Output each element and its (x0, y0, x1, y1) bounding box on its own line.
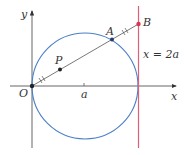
point-A-label: A (105, 25, 114, 38)
line-equation-label: x = 2a (143, 48, 179, 61)
x-axis-label: x (171, 90, 178, 103)
point-P-label: P (54, 54, 63, 67)
point-A (110, 38, 114, 42)
point-P (58, 68, 62, 72)
diagram-canvas: y x O a P A B x = 2a (0, 0, 186, 155)
diagram-svg: y x O a P A B x = 2a (0, 0, 186, 155)
y-axis-label: y (20, 8, 28, 21)
origin-label: O (19, 87, 28, 100)
equal-tick-OP (39, 76, 45, 83)
point-B-label: B (142, 16, 151, 29)
point-O (30, 84, 34, 88)
tick-label-a: a (81, 88, 88, 101)
point-B (136, 22, 140, 26)
